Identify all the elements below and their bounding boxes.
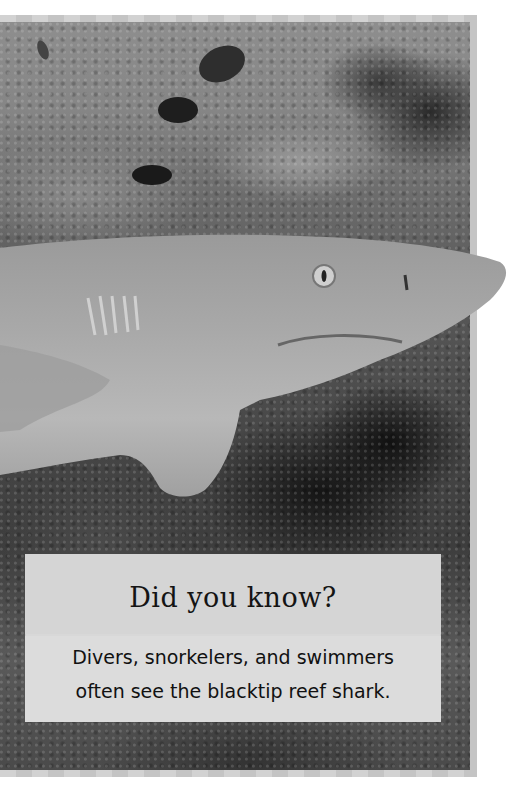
callout-text-line-1: Divers, snorkelers, and swimmers: [25, 636, 441, 674]
callout-body: Divers, snorkelers, and swimmers often s…: [25, 636, 441, 722]
callout-title: Did you know?: [129, 576, 337, 613]
fish-3: [158, 97, 198, 123]
callout-text-line-2: often see the blacktip reef shark.: [76, 680, 391, 702]
fish-4: [132, 165, 172, 185]
did-you-know-callout: Did you know? Divers, snorkelers, and sw…: [25, 554, 441, 722]
callout-header: Did you know?: [25, 554, 441, 634]
